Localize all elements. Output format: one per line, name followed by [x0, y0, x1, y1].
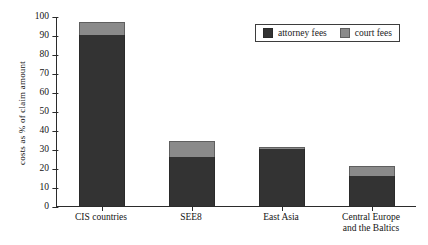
chart-legend: attorney fees court fees [255, 24, 400, 42]
y-axis-tick [52, 169, 58, 170]
bar-segment-attorney-fees [259, 149, 305, 206]
bar-central-europe-and-the-baltics [349, 166, 395, 206]
y-axis-tick [52, 112, 58, 113]
y-axis-tick-label: 0 [44, 202, 49, 212]
bar-east-asia [259, 147, 305, 206]
legend-swatch-attorney-fees-icon [263, 28, 273, 38]
y-axis-tick [52, 93, 58, 94]
legend-label-court-fees: court fees [355, 28, 392, 38]
legend-swatch-court-fees-icon [340, 28, 350, 38]
y-axis-tick-label: 60 [40, 88, 50, 98]
bar-segment-court-fees [349, 166, 395, 176]
plot-area: 0102030405060708090100 [56, 17, 416, 207]
y-axis-tick [52, 188, 58, 189]
stacked-bar-chart: costs as % of claim amount 0102030405060… [0, 0, 428, 245]
y-axis-tick-label: 50 [40, 107, 50, 117]
y-axis-tick-label: 100 [35, 12, 49, 22]
x-axis-category-label-line: Central Europe [326, 212, 416, 223]
y-axis-tick-label: 70 [40, 69, 50, 79]
bar-see8 [169, 141, 215, 206]
y-axis-title: costs as % of claim amount [17, 33, 27, 193]
y-axis-tick [52, 150, 58, 151]
bar-segment-attorney-fees [79, 35, 125, 206]
x-axis-category-label-line: CIS countries [56, 212, 146, 223]
x-axis-category-label: SEE8 [146, 212, 236, 223]
x-axis-tick [372, 206, 373, 211]
y-axis-tick [52, 131, 58, 132]
legend-item-attorney-fees: attorney fees [263, 28, 327, 38]
y-axis-tick-label: 80 [40, 50, 50, 60]
y-axis-tick [52, 74, 58, 75]
y-axis-tick-label: 90 [40, 31, 50, 41]
x-axis-category-label-line: and the Baltics [326, 223, 416, 234]
x-axis-tick [192, 206, 193, 211]
x-axis-tick [102, 206, 103, 211]
x-axis-category-label-line: SEE8 [146, 212, 236, 223]
x-axis-category-label-line: East Asia [236, 212, 326, 223]
y-axis-tick [52, 207, 58, 208]
bar-segment-attorney-fees [349, 176, 395, 206]
y-axis-tick [52, 36, 58, 37]
legend-item-court-fees: court fees [340, 28, 392, 38]
y-axis-tick [52, 55, 58, 56]
legend-label-attorney-fees: attorney fees [278, 28, 327, 38]
bar-segment-court-fees [79, 22, 125, 35]
bar-cis-countries [79, 22, 125, 206]
x-axis-category-label: East Asia [236, 212, 326, 223]
bar-segment-attorney-fees [169, 157, 215, 206]
bar-segment-court-fees [169, 141, 215, 156]
x-axis-category-label: CIS countries [56, 212, 146, 223]
x-axis-tick [282, 206, 283, 211]
y-axis-tick-label: 20 [40, 164, 50, 174]
y-axis-tick-label: 30 [40, 145, 50, 155]
y-axis-tick-label: 10 [40, 183, 50, 193]
y-axis-tick-label: 40 [40, 126, 50, 136]
y-axis-tick [52, 17, 58, 18]
x-axis-category-label: Central Europeand the Baltics [326, 212, 416, 234]
